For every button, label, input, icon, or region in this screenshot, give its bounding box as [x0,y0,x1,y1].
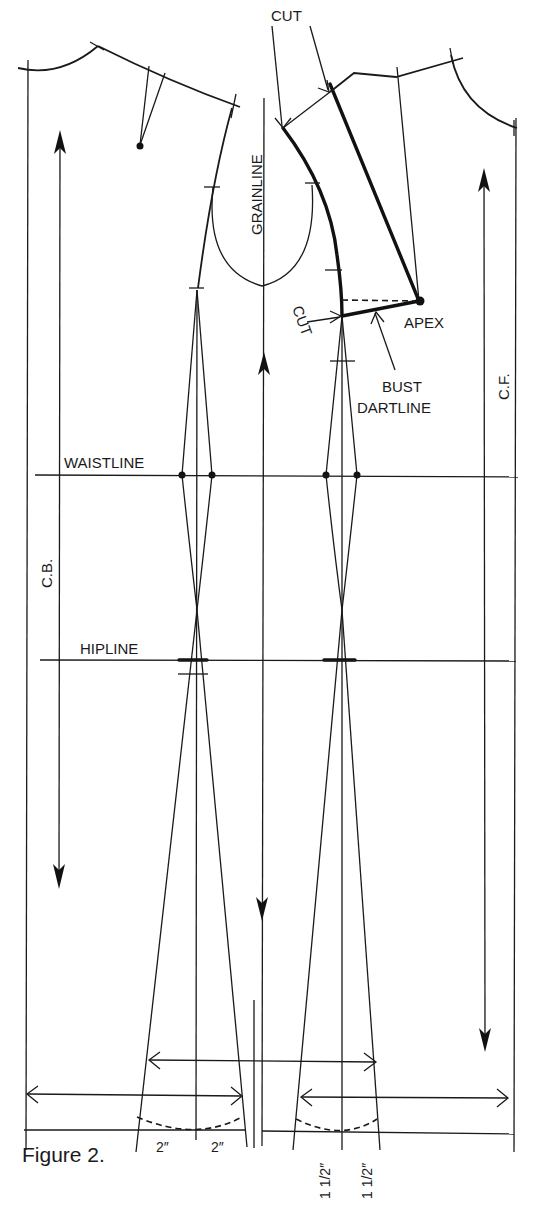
center-back-arrow [59,140,60,880]
bust-dartline-leader [375,313,395,370]
grainline [262,98,264,1146]
waistline-label: WAISTLINE [64,454,144,471]
bust-dartline-label-2: DARTLINE [357,399,431,416]
back-right-measure: 2″ [211,1139,224,1155]
front-left-measure: 1 1/2″ [317,1163,333,1199]
back-shoulder-line [98,46,240,107]
cut-label-side: CUT [289,303,316,338]
front-pattern-piece: C.F. [283,48,517,1152]
apex-point [416,297,425,306]
bust-dart-leg [330,84,419,301]
bust-dartline-dashed [342,300,415,301]
cut-label-top: CUT [271,7,302,24]
waistline [35,475,518,477]
pattern-diagram: GRAINLINE C.F. [0,0,534,1221]
center-front-label: C.F. [495,373,512,400]
shoulder-dart-point [137,143,144,150]
front-armhole-cut [283,128,342,316]
hipline-label: HIPLINE [80,640,138,657]
figure-caption: Figure 2. [22,1143,105,1166]
front-right-measure: 1 1/2″ [359,1163,375,1199]
back-left-measure: 2″ [156,1139,169,1155]
measurement-arrows [27,1052,508,1107]
apex-label: APEX [404,314,444,331]
grainline-label: GRAINLINE [248,154,265,235]
center-front-line [514,118,516,1152]
front-hem-curve [296,1119,377,1131]
center-front-arrow [484,180,485,1040]
center-back-line [26,60,28,1150]
bust-dartline-label-1: BUST [382,378,422,395]
grainline-group: GRAINLINE [212,98,313,1146]
back-neckline [18,46,98,70]
front-neckline [451,55,517,128]
back-side-seam [198,108,232,288]
back-hem-curve [137,1117,242,1130]
front-shoulder-line [330,58,463,92]
hipline [40,660,516,661]
front-hem-line [262,1131,514,1134]
center-back-label: C.B. [38,559,55,588]
